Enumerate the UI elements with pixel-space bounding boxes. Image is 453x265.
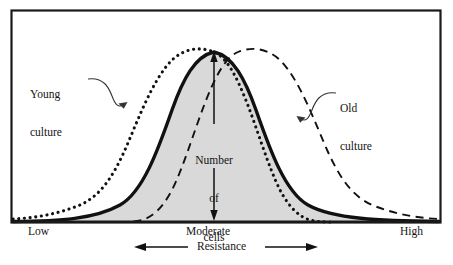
number-of-cells-line1: Number (184, 154, 244, 167)
number-of-cells-line2: of (184, 192, 244, 205)
figure-container: Young culture Old culture Number of cell… (0, 0, 453, 265)
old-culture-annotation: Old culture (340, 76, 372, 179)
axis-title-resistance: Resistance (197, 240, 246, 253)
old-culture-line2: culture (340, 140, 372, 153)
young-culture-line1: Young (30, 88, 62, 101)
axis-label-moderate: Moderate (186, 225, 230, 238)
axis-label-high: High (400, 225, 423, 238)
axis-label-low: Low (28, 225, 49, 238)
young-culture-annotation: Young culture (30, 62, 62, 165)
young-culture-line2: culture (30, 126, 62, 139)
old-culture-line1: Old (340, 102, 372, 115)
